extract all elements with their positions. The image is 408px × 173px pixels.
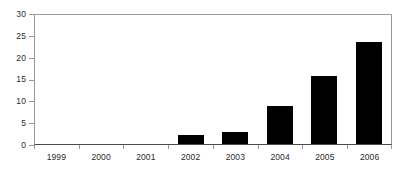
x-axis-label-1999: 1999: [34, 152, 79, 166]
bar-slot-2001: [124, 15, 169, 144]
bar-slot-1999: [35, 15, 80, 144]
bar-2002: [178, 135, 204, 144]
bar-slot-2002: [169, 15, 214, 144]
bar-series: [35, 15, 391, 144]
bar-slot-2004: [258, 15, 303, 144]
x-axis-tick-0: [34, 145, 35, 149]
bar-2006: [356, 42, 382, 144]
bar-2005: [311, 76, 337, 144]
x-axis-tick-5: [258, 145, 259, 149]
bar-slot-2003: [213, 15, 258, 144]
x-axis-label-2005: 2005: [303, 152, 348, 166]
bar-2003: [222, 132, 248, 144]
y-axis-label-20: 20: [0, 54, 26, 63]
x-axis-label-2003: 2003: [213, 152, 258, 166]
x-axis-tick-4: [213, 145, 214, 149]
x-axis-tick-1: [79, 145, 80, 149]
y-axis: 30 25 20 15 10 5 0: [0, 0, 26, 173]
bar-chart: 30 25 20 15 10 5 0 1999: [0, 0, 408, 173]
x-axis-tick-3: [168, 145, 169, 149]
y-axis-label-10: 10: [0, 97, 26, 106]
x-axis-label-2002: 2002: [168, 152, 213, 166]
y-axis-label-0: 0: [0, 141, 26, 150]
bar-slot-2000: [80, 15, 125, 144]
y-axis-label-25: 25: [0, 32, 26, 41]
y-axis-label-15: 15: [0, 75, 26, 84]
x-axis-label-2006: 2006: [347, 152, 392, 166]
x-axis-label-2004: 2004: [258, 152, 303, 166]
x-axis-tick-6: [302, 145, 303, 149]
x-axis-tick-8: [391, 145, 392, 149]
x-axis-label-2000: 2000: [79, 152, 124, 166]
x-axis-label-2001: 2001: [124, 152, 169, 166]
x-axis-ticks: [34, 145, 392, 150]
x-axis-tick-2: [123, 145, 124, 149]
x-axis-tick-7: [347, 145, 348, 149]
x-axis-labels: 1999 2000 2001 2002 2003 2004 2005 2006: [34, 152, 392, 166]
y-axis-label-30: 30: [0, 10, 26, 19]
bar-2004: [267, 106, 293, 144]
bar-slot-2005: [302, 15, 347, 144]
y-axis-label-5: 5: [0, 119, 26, 128]
bar-slot-2006: [347, 15, 392, 144]
